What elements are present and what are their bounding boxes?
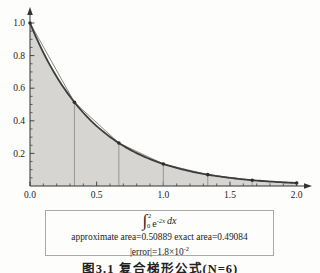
y-tick-label: 0.4 bbox=[13, 116, 25, 126]
y-axis-arrow bbox=[27, 7, 33, 15]
x-tick-label: 0.5 bbox=[91, 190, 103, 200]
integrand: e-2x bbox=[152, 216, 165, 229]
y-tick-label: 0.6 bbox=[13, 83, 25, 93]
differential: dx bbox=[167, 216, 176, 226]
integrand-exponent: -2x bbox=[157, 217, 165, 224]
x-tick-label: 2.0 bbox=[291, 190, 303, 200]
error-text: |error|=1.8×10-2 bbox=[46, 243, 273, 258]
y-tick-label: 0.8 bbox=[13, 51, 25, 61]
x-tick-label: 0.0 bbox=[24, 190, 36, 200]
x-tick-label: 1.5 bbox=[224, 190, 236, 200]
integral-limits: 2 0 bbox=[147, 213, 150, 229]
y-tick-label: 0.2 bbox=[13, 149, 25, 159]
node-dot bbox=[162, 162, 166, 166]
x-axis-arrow bbox=[304, 183, 312, 189]
error-exponent: -2 bbox=[184, 245, 189, 252]
area-values-text: approximate area=0.50889 exact area=0.49… bbox=[46, 231, 273, 243]
result-box: ∫ 2 0 e-2x dx approximate area=0.50889 e… bbox=[45, 210, 274, 256]
node-dot bbox=[206, 173, 210, 177]
x-tick-label: 1.0 bbox=[157, 190, 169, 200]
figure-caption: 图3.1 复合梯形公式(N=6) bbox=[0, 263, 320, 273]
node-dot bbox=[250, 178, 254, 182]
integral-upper-limit: 2 bbox=[148, 213, 151, 220]
plot-canvas: 0.00.51.01.52.00.20.40.60.81.0 bbox=[0, 0, 320, 206]
y-tick-label: 1.0 bbox=[13, 18, 25, 28]
integral-expression: ∫ 2 0 e-2x dx bbox=[46, 211, 273, 231]
node-dot bbox=[73, 101, 77, 105]
figure: 0.00.51.01.52.00.20.40.60.81.0 ∫ 2 0 e-2… bbox=[0, 0, 320, 273]
node-dot bbox=[295, 181, 299, 185]
node-dot bbox=[117, 141, 121, 145]
shaded-area bbox=[30, 23, 297, 186]
integral-lower-limit: 0 bbox=[147, 223, 150, 230]
